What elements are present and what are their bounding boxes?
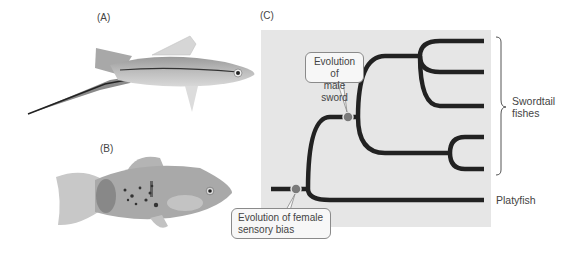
callout-female-bias-line2: sensory bias: [238, 224, 324, 236]
branch-lower-subclade: [358, 117, 450, 153]
callout-male-sword: Evolution of male sword: [305, 52, 364, 83]
callout-female-bias: Evolution of female sensory bias: [231, 208, 331, 239]
clade-label-line1: Swordtail: [512, 95, 555, 107]
branch-leaf-4: [450, 137, 484, 153]
male-sword-marker: [343, 112, 353, 122]
branch-to-swordtails: [308, 117, 358, 189]
callout-male-sword-line2: male sword: [312, 80, 357, 104]
leaf-label-platyfish: Platyfish: [496, 194, 536, 206]
callout-male-sword-line1: Evolution of: [312, 56, 357, 80]
swordtail-brace: [496, 37, 506, 175]
clade-label-line2: fishes: [512, 107, 555, 119]
clade-label-swordtail: Swordtail fishes: [512, 95, 555, 119]
branch-leaf-3: [420, 56, 484, 106]
callout-female-bias-line1: Evolution of female: [238, 212, 324, 224]
branch-leaf-5: [450, 153, 484, 169]
branch-leaf-2: [420, 56, 484, 72]
branch-leaf-1: [420, 41, 484, 56]
branch-platyfish: [308, 189, 484, 200]
female-bias-marker: [291, 184, 301, 194]
branch-upper-subclade: [358, 56, 420, 117]
